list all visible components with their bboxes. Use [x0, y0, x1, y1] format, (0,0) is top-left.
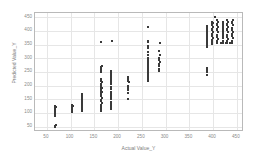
data-point — [110, 83, 112, 85]
data-point — [127, 76, 129, 78]
data-point — [110, 70, 112, 72]
data-point — [147, 45, 149, 47]
data-point — [127, 80, 129, 82]
x-tick-label: 450 — [228, 134, 244, 139]
data-point — [158, 70, 160, 72]
data-point — [231, 33, 233, 35]
data-point — [217, 38, 219, 40]
data-point — [127, 87, 129, 89]
data-point — [206, 67, 208, 69]
data-point — [159, 42, 161, 44]
data-point — [110, 96, 112, 98]
data-point — [100, 78, 102, 80]
x-tick-label: 150 — [85, 134, 101, 139]
data-point — [227, 26, 229, 28]
data-point — [226, 36, 228, 38]
data-points-layer — [35, 13, 242, 130]
data-point — [127, 92, 129, 94]
y-tick-label: 100 — [24, 109, 32, 114]
data-point — [232, 31, 234, 33]
data-point — [158, 57, 160, 59]
data-point — [100, 71, 102, 73]
data-point — [81, 93, 83, 95]
data-point — [158, 65, 160, 67]
data-point — [206, 71, 208, 73]
x-tick-label: 50 — [38, 134, 54, 139]
data-point — [222, 31, 224, 33]
data-point — [110, 88, 112, 90]
data-point — [211, 41, 213, 43]
data-point — [147, 60, 149, 62]
data-point — [220, 42, 222, 44]
data-point — [216, 40, 218, 42]
data-point — [147, 62, 149, 64]
data-point — [231, 40, 233, 42]
data-point — [54, 105, 56, 107]
data-point — [227, 38, 229, 40]
data-point — [206, 69, 208, 71]
data-point — [232, 37, 234, 39]
data-point — [147, 71, 149, 73]
data-point — [231, 27, 233, 29]
data-point — [206, 25, 208, 27]
y-tick-label: 150 — [24, 96, 32, 101]
data-point — [226, 19, 228, 21]
data-point — [232, 19, 234, 21]
data-point — [222, 21, 224, 23]
data-point — [127, 85, 129, 87]
data-point — [231, 21, 233, 23]
data-point — [217, 26, 219, 28]
data-point — [110, 71, 112, 73]
data-point — [216, 34, 218, 36]
data-point — [110, 80, 112, 82]
x-axis-tick-labels: 50100150200250300350400450 — [0, 134, 259, 142]
data-point — [147, 80, 149, 82]
y-tick-label: 400 — [24, 27, 32, 32]
data-point — [147, 66, 149, 68]
x-tick-label: 400 — [204, 134, 220, 139]
data-point — [226, 34, 228, 36]
data-point — [147, 64, 149, 66]
data-point — [111, 40, 113, 42]
y-tick-label: 250 — [24, 68, 32, 73]
plot-area — [34, 12, 243, 131]
y-tick-label: 300 — [24, 55, 32, 60]
data-point — [231, 42, 233, 44]
data-point — [147, 57, 149, 59]
data-point — [100, 100, 102, 102]
x-tick-label: 100 — [62, 134, 78, 139]
data-point — [206, 74, 208, 76]
data-point — [226, 40, 228, 42]
data-point — [206, 44, 208, 46]
scatter-chart: 45040035030025020015010050 5010015020025… — [0, 0, 259, 165]
data-point — [222, 26, 224, 28]
data-point — [216, 36, 218, 38]
data-point — [100, 83, 102, 85]
data-point — [147, 54, 149, 56]
data-point — [231, 29, 233, 31]
y-tick-label: 50 — [27, 123, 32, 128]
data-point — [101, 97, 103, 99]
x-tick-label: 300 — [157, 134, 173, 139]
data-point — [216, 19, 218, 21]
data-point — [127, 89, 129, 91]
data-point — [229, 42, 231, 44]
data-point — [222, 42, 224, 44]
data-point — [158, 68, 160, 70]
data-point — [222, 40, 224, 42]
data-point — [147, 68, 149, 70]
data-point — [100, 68, 102, 70]
data-point — [206, 35, 208, 37]
data-point — [211, 21, 213, 23]
data-point — [222, 33, 224, 35]
data-point — [222, 37, 224, 39]
data-point — [110, 101, 112, 103]
data-point — [147, 51, 149, 53]
data-point — [159, 54, 161, 56]
data-point — [100, 105, 102, 107]
data-point — [158, 50, 160, 52]
data-point — [110, 86, 112, 88]
data-point — [222, 35, 224, 37]
data-point — [100, 80, 102, 82]
data-point — [211, 43, 213, 45]
